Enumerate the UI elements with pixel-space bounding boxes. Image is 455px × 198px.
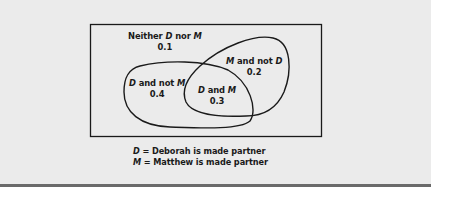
- symbol-d: D: [198, 85, 205, 95]
- legend: D = Deborah is made partner M = Matthew …: [133, 146, 268, 168]
- region-d-only-value: 0.4: [150, 89, 165, 99]
- region-both-value: 0.3: [210, 96, 225, 106]
- bottom-rule-divider: [0, 184, 431, 187]
- legend-item-m: M = Matthew is made partner: [133, 157, 268, 168]
- region-d-only-mid: and not: [136, 78, 177, 88]
- region-neither-mid: nor: [172, 31, 193, 41]
- symbol-m: M: [228, 85, 236, 95]
- region-both-mid: and: [205, 85, 228, 95]
- region-m-only-value: 0.2: [247, 67, 262, 77]
- legend-item-d: D = Deborah is made partner: [133, 146, 268, 157]
- legend-text-m: = Matthew is made partner: [141, 157, 268, 167]
- region-neither-label: Neither D nor M 0.1: [128, 31, 202, 53]
- symbol-m: M: [133, 157, 141, 167]
- legend-text-d: = Deborah is made partner: [140, 146, 266, 156]
- symbol-d: D: [129, 78, 136, 88]
- region-d-only-label: D and not M 0.4: [129, 78, 185, 100]
- symbol-m: M: [226, 56, 234, 66]
- symbol-d: D: [133, 146, 140, 156]
- region-m-only-mid: and not: [234, 56, 275, 66]
- symbol-m: M: [194, 31, 202, 41]
- region-m-only-label: M and not D 0.2: [226, 56, 282, 78]
- region-neither-prefix: Neither: [128, 31, 165, 41]
- region-neither-value: 0.1: [158, 42, 173, 52]
- region-both-label: D and M 0.3: [198, 85, 236, 107]
- symbol-d: D: [275, 56, 282, 66]
- symbol-m: M: [177, 78, 185, 88]
